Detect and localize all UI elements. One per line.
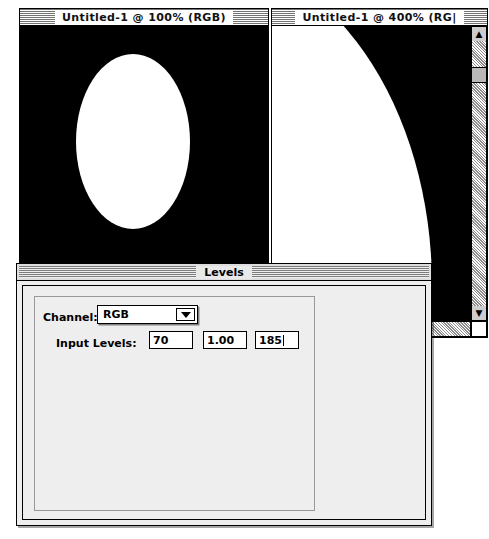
scroll-down-arrow-icon[interactable]: ▼: [472, 306, 486, 320]
window-titlebar-400[interactable]: Untitled-1 @ 400% (RG|: [272, 9, 487, 26]
input-black-point-value: 70: [153, 334, 168, 347]
input-white-point-field[interactable]: 185: [255, 331, 299, 349]
document-window-100[interactable]: Untitled-1 @ 100% (RGB): [19, 8, 269, 270]
dialog-title: Levels: [196, 266, 251, 279]
window-title-100: Untitled-1 @ 100% (RGB): [55, 11, 233, 24]
chevron-down-icon[interactable]: [176, 308, 195, 321]
window-title-400: Untitled-1 @ 400% (RG|: [295, 11, 463, 24]
resize-grow-box[interactable]: [471, 321, 487, 337]
scroll-up-arrow-icon[interactable]: ▲: [472, 27, 486, 41]
input-gamma-field[interactable]: 1.00: [203, 331, 247, 349]
channel-label: Channel:: [43, 311, 98, 324]
image-canvas-100[interactable]: [20, 26, 268, 269]
dialog-titlebar[interactable]: Levels: [17, 264, 431, 281]
scrollbar-thumb[interactable]: [472, 67, 486, 83]
levels-dialog[interactable]: Levels Channel: RGB Input Levels: 70 1.0…: [16, 263, 432, 526]
channel-value: RGB: [103, 308, 129, 321]
ellipse-shape: [76, 54, 190, 229]
input-black-point-field[interactable]: 70: [149, 331, 193, 349]
window-titlebar-100[interactable]: Untitled-1 @ 100% (RGB): [20, 9, 268, 26]
input-white-point-value: 185: [259, 334, 282, 347]
channel-dropdown[interactable]: RGB: [97, 305, 198, 324]
input-levels-label: Input Levels:: [56, 337, 137, 350]
levels-group-frame: [34, 296, 315, 511]
vertical-scrollbar-400[interactable]: ▲ ▼: [471, 26, 487, 321]
text-cursor: [283, 335, 284, 346]
input-gamma-value: 1.00: [207, 334, 234, 347]
